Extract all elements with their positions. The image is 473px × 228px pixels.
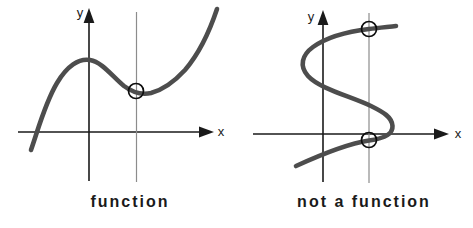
y-axis-arrow-icon (318, 10, 329, 25)
x-axis-arrow-icon (199, 127, 214, 138)
x-axis-label: x (455, 126, 462, 141)
function-graph-panel: y x (18, 5, 225, 182)
not-a-function-caption: not a function (297, 193, 431, 211)
s-shaped-curve (296, 26, 396, 166)
vertical-line-test-figure: y x y x function not a function (0, 0, 473, 228)
function-caption: function (90, 193, 169, 211)
y-axis-label: y (308, 9, 315, 24)
function-curve (31, 9, 217, 150)
y-axis-label: y (77, 5, 84, 20)
not-a-function-graph-panel: y x (253, 9, 462, 183)
x-axis-label: x (218, 124, 225, 139)
y-axis-arrow-icon (84, 8, 95, 23)
x-axis-arrow-icon (434, 129, 449, 140)
